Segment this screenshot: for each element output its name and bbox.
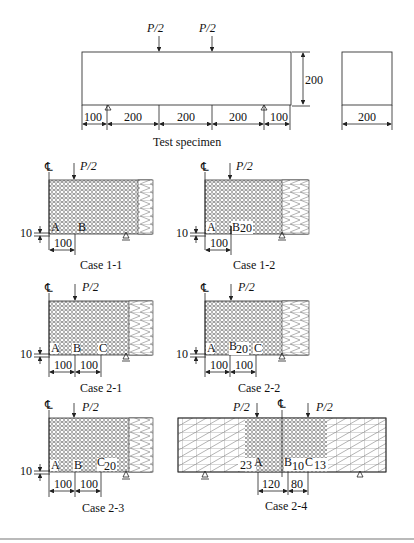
point-c: C (99, 341, 107, 355)
point-c: C (254, 341, 262, 355)
height-dim-label: 200 (305, 73, 323, 87)
notch-label-c: 13 (314, 458, 326, 472)
load-label: P/2 (79, 159, 97, 173)
dim-label-1: 100 (54, 477, 72, 491)
load-label-left: P/2 (146, 21, 164, 35)
span-dim-3: 200 (177, 110, 195, 124)
notch-label: 20 (104, 459, 116, 473)
case-1-1: ℄ P/2 A B 10 100 Case 1-1 (20, 159, 153, 272)
section-width-dim: 200 (358, 110, 376, 124)
figure-canvas: P/2 P/2 200 100 200 200 200 100 200 (0, 0, 414, 543)
dim-label: 100 (54, 236, 72, 250)
centerline-icon: ℄ (200, 281, 209, 295)
span-dim-1: 100 (84, 110, 102, 124)
point-a: A (254, 455, 263, 469)
notch-label: 20 (236, 342, 248, 356)
centerline-icon: ℄ (44, 398, 53, 412)
case-caption: Case 2-1 (80, 381, 122, 395)
centerline-icon: ℄ (277, 397, 286, 411)
point-a: A (51, 341, 60, 355)
load-label-left: P/2 (232, 400, 250, 414)
case-2-1: ℄ P/2 A B C 10 100 100 Case 2-1 (20, 280, 153, 395)
point-b: B (74, 458, 82, 472)
case-2-2: ℄ P/2 A B 20 C 10 100 100 Case 2-2 (176, 280, 309, 395)
span-dim-5: 100 (270, 110, 288, 124)
specimen-caption: Test specimen (153, 135, 221, 149)
point-b: B (78, 220, 86, 234)
point-b: B (284, 455, 292, 469)
load-label: P/2 (237, 280, 255, 294)
case-caption: Case 1-1 (80, 258, 122, 272)
centerline-icon: ℄ (200, 160, 209, 174)
point-a: A (51, 220, 60, 234)
notch-label-a: 23 (240, 458, 252, 472)
span-dim-4: 200 (229, 110, 247, 124)
dim-label-1: 100 (54, 358, 72, 372)
point-a: A (51, 458, 60, 472)
load-label: P/2 (81, 400, 99, 414)
point-a: A (207, 220, 216, 234)
dim-label-2: 80 (291, 477, 303, 491)
point-a: A (207, 341, 216, 355)
support-left-icon (105, 105, 111, 110)
notch-label-b: 10 (292, 459, 304, 473)
point-c: C (305, 455, 313, 469)
load-label: P/2 (81, 280, 99, 294)
offset-label: 10 (20, 226, 32, 240)
dim-label-1: 120 (262, 477, 280, 491)
centerline-icon: ℄ (44, 281, 53, 295)
notch-label: 20 (240, 221, 252, 235)
case-2-3: ℄ P/2 A B C 20 10 100 100 Case 2-3 (20, 398, 153, 515)
test-specimen: P/2 P/2 200 100 200 200 200 100 200 (82, 21, 392, 149)
offset-label: 10 (176, 347, 188, 361)
dim-label-2: 100 (80, 358, 98, 372)
dim-label-2: 100 (235, 358, 253, 372)
offset-label: 10 (20, 464, 32, 478)
span-dim-2: 200 (124, 110, 142, 124)
offset-label: 10 (20, 347, 32, 361)
load-label-right: P/2 (198, 21, 216, 35)
case-1-2: ℄ P/2 A B 20 10 100 Case 1-2 (176, 159, 309, 272)
load-label: P/2 (235, 159, 253, 173)
dim-label-2: 100 (80, 477, 98, 491)
case-caption: Case 2-2 (238, 381, 280, 395)
case-caption: Case 2-3 (82, 501, 124, 515)
specimen-beam (82, 52, 291, 105)
centerline-icon: ℄ (44, 160, 53, 174)
point-b: B (232, 220, 240, 234)
dim-label: 100 (210, 236, 228, 250)
dim-label-1: 100 (210, 358, 228, 372)
point-b: B (73, 341, 81, 355)
offset-label: 10 (176, 226, 188, 240)
cross-section (342, 52, 392, 105)
case-2-4: P/2 ℄ P/2 23 A B 10 C 13 120 80 Case 2-4 (178, 397, 386, 513)
case-caption: Case 1-2 (233, 258, 275, 272)
load-label-right: P/2 (315, 400, 333, 414)
case-caption: Case 2-4 (265, 499, 307, 513)
